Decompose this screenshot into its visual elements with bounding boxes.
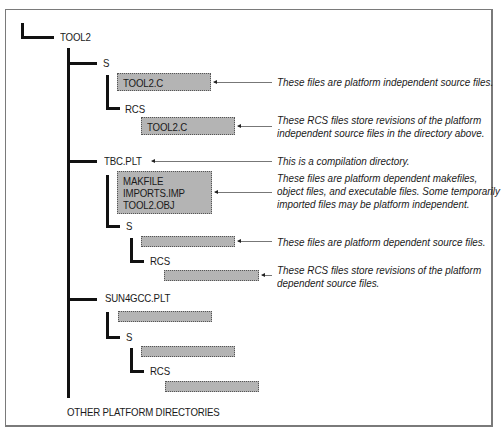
tbc-rcs-branch [130, 260, 144, 263]
file-box [164, 270, 259, 281]
s-rcs-branch [106, 107, 120, 110]
rcs-dir-label: RCS [150, 255, 170, 267]
file-box [141, 236, 235, 247]
file-box [141, 346, 235, 357]
file-box: MAKFILE IMPORTS.IMP TOOL2.OBJ [117, 171, 212, 214]
annotation-note: These files are platform dependent makef… [277, 172, 500, 211]
annotation-note: These RCS files store revisions of the p… [277, 264, 481, 290]
sun-rcs-branch [130, 370, 144, 373]
file-box: TOOL2.C [141, 117, 235, 135]
file-box [118, 311, 212, 322]
s-dir-label: S [103, 57, 109, 69]
root-connector-horizontal [21, 36, 54, 39]
tbc-branch [67, 160, 97, 163]
sun-children-vertical [106, 312, 109, 339]
rcs-dir-label: RCS [150, 365, 170, 377]
diagram-frame [5, 9, 493, 427]
arrow-left-icon [262, 275, 272, 276]
s-dir-label: S [126, 331, 132, 343]
arrow-left-icon [214, 82, 272, 83]
annotation-note: This is a compilation directory. [277, 155, 409, 168]
tbc-s-branch [106, 225, 120, 228]
arrow-left-icon [238, 241, 272, 242]
tbc-children-vertical [106, 175, 109, 228]
other-dirs-label: OTHER PLATFORM DIRECTORIES [67, 406, 220, 418]
arrow-left-icon [238, 126, 272, 127]
s-children-vertical [106, 75, 109, 110]
sun-s-branch [106, 336, 120, 339]
rcs-dir-label: RCS [125, 103, 145, 115]
s-dir-label: S [126, 220, 132, 232]
arrow-left-icon [215, 192, 272, 193]
annotation-note: These RCS files store revisions of the p… [277, 114, 484, 140]
annotation-note: These files are platform dependent sourc… [277, 236, 486, 249]
arrow-left-icon [152, 161, 272, 162]
annotation-note: These files are platform independent sou… [277, 76, 493, 89]
s-branch [67, 62, 97, 65]
sun-branch [67, 298, 97, 301]
file-box [165, 381, 259, 392]
tbc-dir-label: TBC.PLT [104, 155, 142, 167]
sun-dir-label: SUN4GCC.PLT [105, 292, 170, 304]
root-dir-label: TOOL2 [60, 31, 91, 43]
main-trunk [67, 48, 70, 398]
file-box: TOOL2.C [117, 73, 211, 91]
